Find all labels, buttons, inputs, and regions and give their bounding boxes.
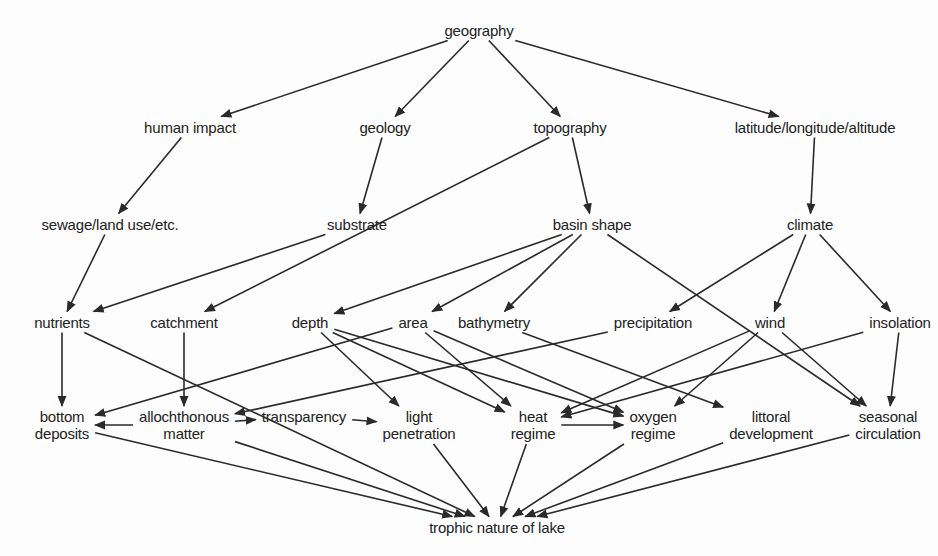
node-substrate: substrate <box>324 216 390 233</box>
edge-geology-to-substrate <box>360 138 382 214</box>
node-allochthonous-matter: allochthonous matter <box>136 408 232 442</box>
edge-depth-to-oxygen_regime <box>334 329 623 416</box>
edge-basin_shape-to-depth <box>334 235 562 314</box>
lake-trophic-diagram: geography human impact geology topograph… <box>0 0 938 556</box>
node-littoral-development: littoral development <box>726 408 816 442</box>
node-catchment: catchment <box>147 314 220 331</box>
edge-oxygen_regime-to-trophic_nature <box>513 444 624 517</box>
node-seasonal-circulation: seasonal circulation <box>852 408 923 442</box>
node-precipitation: precipitation <box>611 314 695 331</box>
edge-layer <box>0 0 938 556</box>
edge-area-to-bottom_deposits <box>95 328 392 415</box>
node-transparency: transparency <box>259 408 349 425</box>
node-geography: geography <box>441 22 516 39</box>
node-sewage-land-use: sewage/land use/etc. <box>39 216 182 233</box>
edge-littoral_development-to-trophic_nature <box>525 443 723 517</box>
edge-basin_shape-to-bathymetry <box>505 235 582 312</box>
edge-human_impact-to-sewage <box>119 138 182 214</box>
node-insolation: insolation <box>866 314 933 331</box>
edge-geography-to-lat_long_alt <box>515 41 778 117</box>
edge-depth-to-light_penetration <box>321 333 399 407</box>
edge-allochthonous_matter-to-trophic_nature <box>235 442 465 517</box>
node-bottom-deposits: bottom deposits <box>32 408 92 442</box>
edge-sewage-to-nutrients <box>67 235 105 312</box>
edge-geography-to-geology <box>395 41 469 117</box>
edge-climate-to-wind <box>774 235 805 312</box>
node-geology: geology <box>356 119 413 136</box>
edge-allochthonous_matter-to-transparency <box>235 420 256 422</box>
edge-lat_long_alt-to-climate <box>811 138 815 214</box>
node-nutrients: nutrients <box>31 314 93 331</box>
edge-geography-to-human_impact <box>221 41 447 117</box>
edge-bathymetry-to-littoral_development <box>522 333 723 408</box>
node-wind: wind <box>752 314 788 331</box>
node-climate: climate <box>784 216 836 233</box>
edge-climate-to-insolation <box>820 235 891 312</box>
node-basin-shape: basin shape <box>550 216 635 233</box>
node-latitude-longitude-altitude: latitude/longitude/altitude <box>732 119 899 136</box>
edge-seasonal_circulation-to-trophic_nature <box>537 435 849 516</box>
node-bathymetry: bathymetry <box>455 314 533 331</box>
edge-transparency-to-light_penetration <box>352 420 376 422</box>
node-oxygen-regime: oxygen regime <box>626 408 679 442</box>
edge-wind-to-oxygen_regime <box>675 333 758 407</box>
node-topography: topography <box>530 119 609 136</box>
node-depth: depth <box>289 314 332 331</box>
node-human-impact: human impact <box>141 119 239 136</box>
edge-substrate-to-nutrients <box>94 235 326 312</box>
edge-heat_regime-to-trophic_nature <box>501 444 527 517</box>
edge-insolation-to-heat_regime <box>561 332 863 417</box>
edge-light_penetration-to-trophic_nature <box>434 444 489 517</box>
node-trophic-nature-of-lake: trophic nature of lake <box>426 519 568 536</box>
edge-climate-to-precipitation <box>670 235 793 312</box>
edge-bottom_deposits-to-trophic_nature <box>95 433 452 517</box>
edge-insolation-to-seasonal_circulation <box>890 333 899 407</box>
edge-topography-to-basin_shape <box>572 138 589 214</box>
node-heat-regime: heat regime <box>508 408 559 442</box>
node-light-penetration: light penetration <box>380 408 459 442</box>
node-area: area <box>395 314 430 331</box>
edge-geography-to-topography <box>489 41 560 117</box>
edge-area-to-oxygen_regime <box>434 331 624 412</box>
